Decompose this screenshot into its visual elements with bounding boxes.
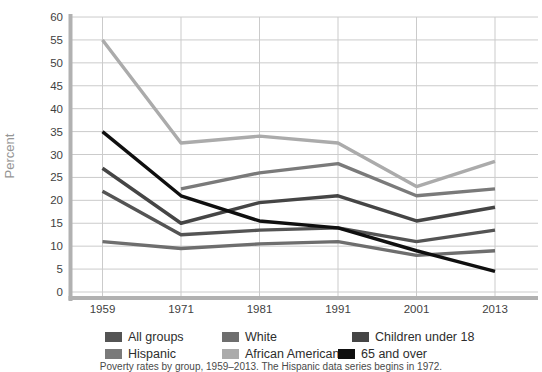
svg-text:1991: 1991: [325, 303, 351, 315]
series-line-children-under-18: [103, 168, 496, 223]
figure-caption: Poverty rates by group, 1959–2013. The H…: [0, 361, 542, 372]
axes: [69, 14, 539, 301]
65-and-over-swatch-icon: [338, 349, 355, 359]
legend-item-hispanic: Hispanic: [105, 348, 176, 360]
svg-text:10: 10: [50, 240, 63, 252]
svg-text:55: 55: [50, 34, 63, 46]
svg-text:25: 25: [50, 171, 63, 183]
chart-svg: 6055504540353025201510501959197119811991…: [0, 0, 542, 330]
line-chart: 6055504540353025201510501959197119811991…: [0, 0, 542, 330]
series-line-white: [103, 242, 496, 256]
legend-label-hispanic: Hispanic: [128, 348, 176, 360]
svg-text:5: 5: [57, 263, 63, 275]
legend-item-children-under-18: Children under 18: [352, 331, 474, 343]
hispanic-swatch-icon: [105, 349, 122, 359]
svg-text:35: 35: [50, 126, 63, 138]
svg-text:50: 50: [50, 57, 63, 69]
svg-text:1971: 1971: [168, 303, 194, 315]
legend-label-white: White: [245, 331, 277, 343]
svg-text:30: 30: [50, 149, 63, 161]
svg-text:1981: 1981: [247, 303, 273, 315]
legend-label-children-under-18: Children under 18: [375, 331, 474, 343]
all-groups-swatch-icon: [105, 332, 122, 342]
gridlines: [71, 17, 539, 296]
african-american-swatch-icon: [222, 349, 239, 359]
svg-text:2001: 2001: [404, 303, 430, 315]
svg-text:60: 60: [50, 11, 63, 23]
svg-text:45: 45: [50, 80, 63, 92]
legend-label-65-and-over: 65 and over: [361, 348, 427, 360]
legend-label-all-groups: All groups: [128, 331, 184, 343]
svg-text:20: 20: [50, 194, 63, 206]
series-line-65-and-over: [103, 132, 496, 272]
y-axis-title: Percent: [2, 133, 17, 178]
svg-text:15: 15: [50, 217, 63, 229]
legend-item-65-and-over: 65 and over: [338, 348, 427, 360]
y-tick-labels: 605550454035302520151050: [50, 11, 63, 298]
legend-label-african-american: African American: [245, 348, 339, 360]
legend-item-all-groups: All groups: [105, 331, 184, 343]
children-under-18-swatch-icon: [352, 332, 369, 342]
legend-item-african-american: African American: [222, 348, 339, 360]
x-tick-labels: 195919711981199120012013: [90, 303, 508, 315]
white-swatch-icon: [222, 332, 239, 342]
svg-text:2013: 2013: [482, 303, 508, 315]
legend-item-white: White: [222, 331, 277, 343]
svg-text:40: 40: [50, 103, 63, 115]
svg-text:0: 0: [57, 286, 63, 298]
series-line-african-american: [103, 40, 496, 187]
svg-text:1959: 1959: [90, 303, 116, 315]
